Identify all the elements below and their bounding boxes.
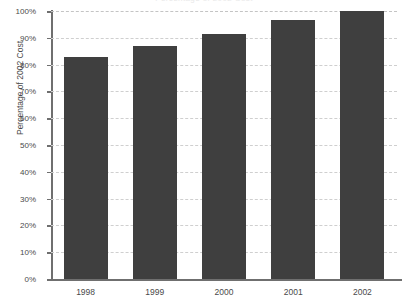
y-axis-tick — [47, 225, 51, 227]
y-axis-tick — [47, 145, 51, 147]
x-axis-line — [47, 279, 402, 281]
x-axis-tick-label: 2000 — [194, 287, 254, 297]
y-axis-tick — [47, 118, 51, 120]
chart-title: Percentage of 2002 Cost — [0, 0, 408, 3]
bar-2002 — [340, 11, 384, 279]
x-axis-tick-label: 1998 — [56, 287, 116, 297]
y-axis-tick-label: 40% — [0, 167, 36, 176]
y-axis-tick — [47, 279, 51, 281]
x-axis-tick-label: 2001 — [263, 287, 323, 297]
y-axis-tick — [47, 252, 51, 254]
y-axis-tick — [47, 11, 51, 13]
y-axis-tick — [47, 199, 51, 201]
y-axis-tick-label: 60% — [0, 114, 36, 123]
y-axis-tick — [47, 172, 51, 174]
y-axis-tick-label: 50% — [0, 141, 36, 150]
y-axis-tick — [47, 65, 51, 67]
x-axis-tick-label: 2002 — [332, 287, 392, 297]
y-axis-tick-label: 10% — [0, 248, 36, 257]
y-axis-tick — [47, 38, 51, 40]
y-axis-tick-label: 20% — [0, 221, 36, 230]
y-axis-tick — [47, 91, 51, 93]
bar-1999 — [133, 46, 177, 279]
y-axis-tick-label: 30% — [0, 194, 36, 203]
bar-1998 — [64, 57, 108, 279]
plot-area: 0%10%20%30%40%50%60%70%80%90%100% — [51, 11, 397, 279]
y-axis-tick-label: 70% — [0, 87, 36, 96]
y-axis-tick-label: 90% — [0, 33, 36, 42]
y-axis-tick-label: 100% — [0, 7, 36, 16]
bar-2000 — [202, 34, 246, 279]
x-axis-tick-label: 1999 — [125, 287, 185, 297]
bar-2001 — [271, 20, 315, 279]
y-axis-tick-label: 80% — [0, 60, 36, 69]
bar-chart: Percentage of 2002 Cost Percentage of 20… — [0, 0, 408, 304]
y-axis-tick-label: 0% — [0, 275, 36, 284]
